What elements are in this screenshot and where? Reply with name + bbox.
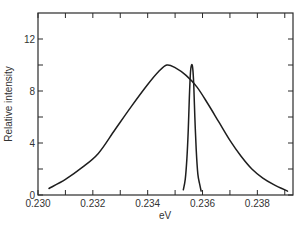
x-tick-label: 0.234 xyxy=(135,198,160,209)
chart: 0.2300.2320.2340.2360.23804812 eV Relati… xyxy=(0,0,305,231)
series-line-broad-band xyxy=(49,65,288,191)
series-line-narrow-line xyxy=(183,65,201,192)
ticks xyxy=(38,13,293,195)
x-axis-title: eV xyxy=(159,210,172,221)
x-tick-label: 0.238 xyxy=(245,198,270,209)
x-tick-label: 0.232 xyxy=(80,198,105,209)
y-tick-label: 12 xyxy=(24,34,36,45)
y-tick-label: 0 xyxy=(29,190,35,201)
y-tick-label: 8 xyxy=(29,86,35,97)
y-tick-label: 4 xyxy=(29,138,35,149)
y-axis-title: Relative intensity xyxy=(3,66,14,142)
plot-frame xyxy=(38,13,293,195)
curves xyxy=(49,65,288,192)
x-tick-label: 0.236 xyxy=(190,198,215,209)
